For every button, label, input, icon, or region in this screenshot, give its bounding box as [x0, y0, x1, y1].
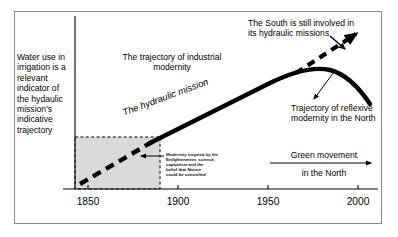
label-industrial-modernity: The trajectory of industrial modernity [112, 52, 232, 72]
x-tick-label-1850: 1850 [66, 196, 110, 207]
x-tick-label-1900: 1900 [156, 196, 200, 207]
x-tick-label-2000: 2000 [336, 196, 380, 207]
label-reflexive-modernity: Trajectory of reflexive modernity in the… [291, 103, 387, 123]
label-south-hydraulic-missions: The South is still involved in its hydra… [248, 18, 360, 38]
figure-root: Water use in irrigation is a relevant in… [0, 0, 398, 237]
label-green-movement-line1: Green movement [272, 150, 376, 160]
side-caption: Water use in irrigation is a relevant in… [17, 52, 69, 135]
label-green-movement-line2: in the North [272, 168, 376, 178]
note-box-line: could be controlled [166, 172, 228, 177]
x-tick-label-1950: 1950 [246, 196, 290, 207]
note-box: Modernity inspired by the Enlightenment,… [166, 152, 228, 177]
reflexive-caption-pointer [314, 72, 334, 99]
